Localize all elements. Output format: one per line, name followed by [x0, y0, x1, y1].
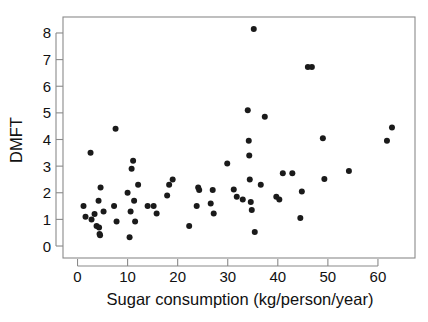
scatter-point: [135, 182, 141, 188]
scatter-plot-svg: 012345678 0102030405060 Sugar consumptio…: [0, 0, 428, 322]
scatter-point: [111, 203, 117, 209]
scatter-point: [83, 214, 89, 220]
scatter-point: [245, 107, 251, 113]
scatter-point: [96, 224, 102, 230]
scatter-point: [389, 125, 395, 131]
scatter-point: [246, 138, 252, 144]
x-axis-tick-label: 30: [219, 268, 236, 285]
scatter-point: [346, 168, 352, 174]
scatter-point: [321, 176, 327, 182]
plot-background: [0, 0, 428, 322]
y-axis-tick-label: 2: [43, 184, 51, 201]
scatter-point: [224, 160, 230, 166]
scatter-point: [194, 203, 200, 209]
scatter-point: [246, 152, 252, 158]
scatter-point: [231, 187, 237, 193]
scatter-point: [125, 190, 131, 196]
scatter-point: [127, 234, 133, 240]
x-axis-tick-label: 0: [73, 268, 81, 285]
x-axis-tick-label: 50: [320, 268, 337, 285]
scatter-point: [252, 229, 258, 235]
y-axis-tick-label: 4: [43, 131, 51, 148]
scatter-point: [166, 182, 172, 188]
y-axis-tick-label: 8: [43, 24, 51, 41]
scatter-point: [258, 182, 264, 188]
scatter-point: [186, 223, 192, 229]
scatter-point: [289, 170, 295, 176]
scatter-point: [320, 135, 326, 141]
x-axis-title: Sugar consumption (kg/person/year): [107, 290, 374, 308]
scatter-point: [210, 187, 216, 193]
scatter-point: [240, 196, 246, 202]
scatter-point: [170, 176, 176, 182]
x-axis-tick-label: 10: [119, 268, 136, 285]
x-axis-tick-label: 40: [269, 268, 286, 285]
scatter-point: [249, 207, 255, 213]
scatter-point: [299, 188, 305, 194]
scatter-point: [88, 150, 94, 156]
scatter-point: [145, 203, 151, 209]
scatter-point: [247, 176, 253, 182]
scatter-point: [97, 232, 103, 238]
y-axis-tick-label: 7: [43, 51, 51, 68]
scatter-point: [130, 158, 136, 164]
y-axis-tick-label: 3: [43, 158, 51, 175]
scatter-point: [309, 64, 315, 70]
scatter-point: [129, 166, 135, 172]
scatter-point: [89, 216, 95, 222]
scatter-point: [96, 198, 102, 204]
scatter-plot-figure: 012345678 0102030405060 Sugar consumptio…: [0, 0, 428, 322]
scatter-point: [98, 184, 104, 190]
scatter-point: [276, 196, 282, 202]
scatter-point: [151, 203, 157, 209]
scatter-point: [211, 211, 217, 217]
y-axis-tick-label: 1: [43, 211, 51, 228]
scatter-point: [251, 26, 257, 32]
y-axis-title: DMFT: [7, 117, 25, 163]
x-axis-tick-label: 60: [370, 268, 387, 285]
scatter-point: [128, 208, 134, 214]
scatter-point: [164, 192, 170, 198]
scatter-point: [234, 194, 240, 200]
scatter-point: [131, 198, 137, 204]
scatter-point: [248, 199, 254, 205]
scatter-point: [132, 219, 138, 225]
x-axis-tick-label: 20: [169, 268, 186, 285]
scatter-point: [384, 138, 390, 144]
y-axis-tick-labels: 012345678: [43, 24, 51, 254]
scatter-point: [114, 219, 120, 225]
scatter-point: [81, 203, 87, 209]
scatter-point: [196, 187, 202, 193]
scatter-point: [101, 208, 107, 214]
y-axis-tick-label: 0: [43, 238, 51, 255]
scatter-point: [113, 126, 119, 132]
scatter-point: [297, 215, 303, 221]
y-axis-tick-label: 5: [43, 104, 51, 121]
scatter-point: [280, 170, 286, 176]
scatter-point: [262, 114, 268, 120]
scatter-point: [208, 200, 214, 206]
scatter-point: [92, 211, 98, 217]
scatter-point: [154, 211, 160, 217]
y-axis-tick-label: 6: [43, 78, 51, 95]
